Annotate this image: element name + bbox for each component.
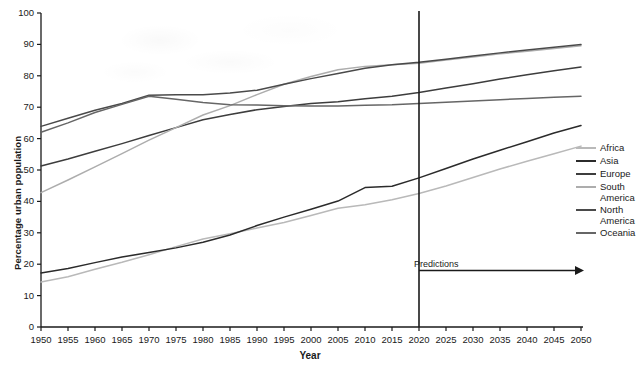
legend-line-swatch-icon bbox=[576, 204, 596, 215]
x-tick-label: 2050 bbox=[565, 334, 597, 345]
predictions-annotation-label: Predictions bbox=[414, 259, 459, 269]
y-tick-label: 90 bbox=[1, 38, 34, 49]
legend-item[interactable]: Europe bbox=[576, 168, 641, 180]
legend-item[interactable]: Africa bbox=[576, 142, 641, 154]
series-line bbox=[41, 125, 581, 273]
y-tick-label: 70 bbox=[1, 101, 34, 112]
legend-item-label: North America bbox=[600, 204, 635, 226]
legend-item-label: South America bbox=[600, 181, 635, 203]
y-tick-label: 40 bbox=[1, 195, 34, 206]
y-tick-label: 80 bbox=[1, 70, 34, 81]
legend-item[interactable]: South America bbox=[576, 181, 641, 203]
series-line bbox=[41, 46, 581, 193]
legend-item-label: Oceania bbox=[600, 227, 635, 238]
legend-item[interactable]: Oceania bbox=[576, 227, 641, 239]
legend-item-label: Asia bbox=[600, 155, 618, 166]
legend-item[interactable]: North America bbox=[576, 204, 641, 226]
legend-line-swatch-icon bbox=[576, 181, 596, 192]
legend-item-label: Africa bbox=[600, 142, 624, 153]
legend-item[interactable]: Asia bbox=[576, 155, 641, 167]
y-tick-label: 100 bbox=[1, 7, 34, 18]
y-tick-label: 50 bbox=[1, 164, 34, 175]
legend: AfricaAsiaEuropeSouth AmericaNorth Ameri… bbox=[576, 142, 641, 240]
y-tick-label: 20 bbox=[1, 258, 34, 269]
series-line bbox=[41, 67, 581, 166]
legend-line-swatch-icon bbox=[576, 227, 596, 238]
legend-item-label: Europe bbox=[600, 168, 631, 179]
predictions-arrow-head bbox=[575, 266, 584, 275]
legend-line-swatch-icon bbox=[576, 155, 596, 166]
series-line bbox=[41, 96, 581, 132]
y-tick-label: 0 bbox=[1, 321, 34, 332]
y-tick-label: 30 bbox=[1, 227, 34, 238]
legend-line-swatch-icon bbox=[576, 168, 596, 179]
series-line bbox=[41, 146, 581, 282]
y-tick-label: 60 bbox=[1, 133, 34, 144]
y-tick-label: 10 bbox=[1, 290, 34, 301]
legend-line-swatch-icon bbox=[576, 142, 596, 153]
urban-population-line-chart: Percentage urban population Year 0102030… bbox=[0, 0, 641, 367]
series-line bbox=[41, 44, 581, 126]
plot-area bbox=[0, 0, 641, 367]
